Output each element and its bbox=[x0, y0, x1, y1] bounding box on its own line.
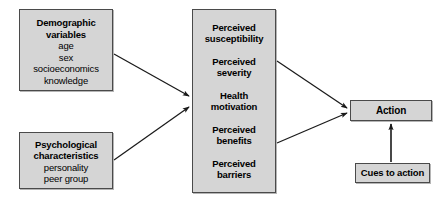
node-demographic-header: Demographic variables bbox=[36, 17, 95, 40]
belief-item-perceived-benefits: Perceived benefits bbox=[212, 124, 256, 147]
node-demographic-items: age sex socioeconomics knowledge bbox=[33, 40, 99, 86]
node-health-beliefs: Perceived susceptibility Perceived sever… bbox=[192, 9, 276, 193]
belief-item-health-motivation: Health motivation bbox=[211, 90, 258, 113]
belief-item-perceived-severity: Perceived severity bbox=[212, 56, 256, 79]
belief-item-perceived-susceptibility: Perceived susceptibility bbox=[205, 22, 264, 45]
node-demographic-variables: Demographic variables age sex socioecono… bbox=[19, 9, 113, 91]
node-action-label: Action bbox=[376, 105, 406, 117]
node-psychological-characteristics: Psychological characteristics personalit… bbox=[19, 132, 113, 189]
node-cues-label: Cues to action bbox=[361, 167, 424, 179]
node-cues-to-action: Cues to action bbox=[355, 163, 430, 183]
belief-item-perceived-barriers: Perceived barriers bbox=[212, 158, 256, 181]
arrow-demographic-to-beliefs bbox=[114, 54, 189, 96]
arrow-beliefs-to-action-upper bbox=[277, 61, 347, 108]
node-action: Action bbox=[350, 100, 432, 121]
arrow-psychological-to-beliefs bbox=[114, 107, 189, 160]
arrow-beliefs-to-action-lower bbox=[277, 113, 347, 143]
node-psychological-header: Psychological characteristics bbox=[34, 139, 99, 162]
node-psychological-items: personality peer group bbox=[44, 162, 88, 185]
health-belief-model-diagram: Demographic variables age sex socioecono… bbox=[0, 0, 448, 207]
